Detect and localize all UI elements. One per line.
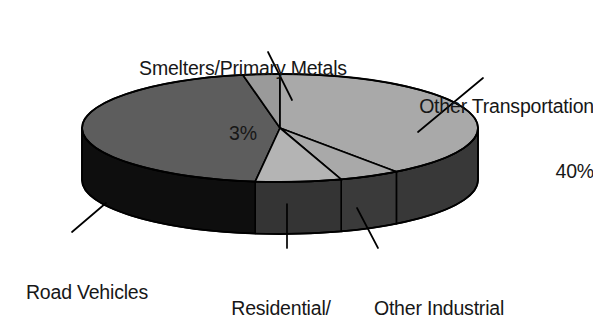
label-other-industrial-processes: Other Industrial Processes 5% xyxy=(360,254,518,330)
label-industrial-text-1: Other Industrial xyxy=(360,298,518,320)
label-smelters-text: Smelters/Primary Metals xyxy=(108,58,378,80)
pie-chart: Smelters/Primary Metals 3% Other Transpo… xyxy=(0,0,593,330)
label-smelters-percent: 3% xyxy=(108,123,378,145)
label-other-transportation: Other Transportation 40% xyxy=(414,52,593,227)
label-road-vehicles-text: Road Vehicles xyxy=(4,282,170,304)
label-residential-text-1: Residential/ xyxy=(196,298,366,320)
label-transportation-text: Other Transportation xyxy=(414,96,593,118)
label-residential-miscellaneous: Residential/ Miscellaneous 7% xyxy=(196,254,366,330)
label-transportation-percent: 40% xyxy=(414,161,593,183)
label-road-vehicles: Road Vehicles 45% xyxy=(4,238,170,330)
leader-line-road-vehicles xyxy=(72,203,106,232)
label-smelters-primary-metals: Smelters/Primary Metals 3% xyxy=(108,14,378,189)
